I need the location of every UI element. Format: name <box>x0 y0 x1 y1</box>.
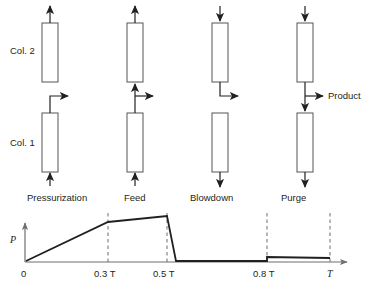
column-2-vessel-step1 <box>42 23 58 82</box>
phase-label-blowdown: Blowdown <box>190 192 233 203</box>
psa-cycle-diagram: Col. 2 Col. 1 <box>0 0 373 281</box>
phase-label-purge: Purge <box>281 192 306 203</box>
column-1-vessel-step3 <box>212 113 228 172</box>
column-2-vessel-step2 <box>127 23 143 82</box>
x-tick-label-0: 0 <box>21 268 26 279</box>
column-1-vessel-step2 <box>127 113 143 172</box>
x-tick-label-0.8T: 0.8 T <box>253 268 275 279</box>
column-1-vessel-step4 <box>297 113 313 172</box>
product-label: Product <box>328 90 361 101</box>
row-label-col1: Col. 1 <box>10 137 35 148</box>
y-axis-label: P <box>9 234 16 245</box>
column-2-vessel-step3 <box>212 23 228 82</box>
column-2-vessel-step4 <box>297 23 313 82</box>
row-label-col2: Col. 2 <box>10 45 35 56</box>
column-1-vessel-step1 <box>42 113 58 172</box>
x-tick-label-0.5T: 0.5 T <box>153 268 175 279</box>
x-tick-label-0.3T: 0.3 T <box>94 268 116 279</box>
phase-label-pressurization: Pressurization <box>27 192 87 203</box>
phase-label-feed: Feed <box>124 192 146 203</box>
